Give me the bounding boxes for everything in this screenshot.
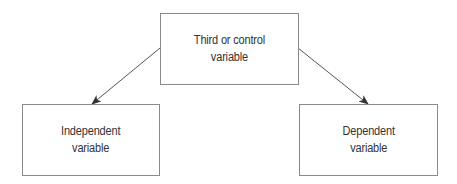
node-dependent-variable: Dependent variable	[299, 104, 438, 176]
diagram-canvas: Third or control variable Independent va…	[0, 0, 457, 184]
label-line: Independent	[61, 123, 120, 140]
arrow-third-to-dependent	[298, 48, 368, 104]
node-independent-variable: Independent variable	[22, 104, 160, 176]
node-independent-variable-label: Independent variable	[61, 123, 120, 157]
label-line: variable	[61, 140, 120, 157]
label-line: Dependent	[342, 123, 394, 140]
node-dependent-variable-label: Dependent variable	[342, 123, 394, 157]
label-line: variable	[194, 49, 265, 66]
node-third-variable: Third or control variable	[160, 13, 299, 85]
label-line: Third or control	[194, 32, 265, 49]
arrow-third-to-independent	[92, 48, 160, 104]
node-third-variable-label: Third or control variable	[194, 32, 265, 66]
label-line: variable	[342, 140, 394, 157]
